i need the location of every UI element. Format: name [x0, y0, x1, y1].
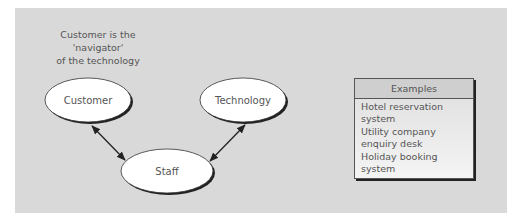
examples-box: Examples Hotel reservation system Utilit… — [354, 78, 474, 179]
technology-staff-arrow — [210, 125, 245, 161]
technology-node: Technology — [200, 78, 288, 124]
customer-label: Customer — [64, 95, 113, 106]
example-item: Holiday booking system — [361, 151, 467, 174]
staff-node: Staff — [121, 149, 215, 195]
customer-staff-arrow — [92, 126, 125, 160]
examples-title: Examples — [355, 79, 473, 99]
staff-label: Staff — [155, 166, 179, 177]
technology-label: Technology — [214, 95, 271, 106]
examples-list: Hotel reservation system Utility company… — [355, 99, 473, 178]
example-item: Utility company enquiry desk — [361, 126, 467, 149]
example-item: Hotel reservation system — [361, 101, 467, 124]
customer-node: Customer — [45, 78, 133, 124]
